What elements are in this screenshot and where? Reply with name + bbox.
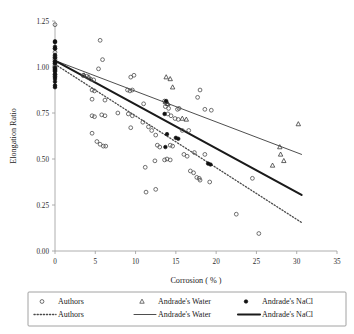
y-tick-label: 0.00	[36, 248, 49, 256]
data-point	[164, 99, 168, 103]
data-point	[198, 88, 202, 92]
data-point	[126, 112, 130, 116]
chart-figure: 0.000.250.500.751.001.2505101520253035 C…	[0, 0, 354, 334]
data-point	[130, 114, 134, 118]
scatter-chart: 0.000.250.500.751.001.2505101520253035 C…	[0, 0, 354, 334]
data-point	[53, 56, 57, 60]
data-point	[150, 129, 154, 133]
data-point	[154, 187, 158, 191]
x-tick-label: 20	[213, 258, 221, 266]
data-point	[176, 137, 180, 141]
legend-label: Andrade's Water	[158, 297, 211, 306]
y-tick-label: 0.75	[36, 110, 49, 118]
data-point	[98, 38, 102, 42]
y-tick-label: 0.50	[36, 156, 49, 164]
x-tick-label: 30	[293, 258, 301, 266]
data-point	[257, 232, 261, 236]
data-point	[203, 153, 207, 157]
trendlines	[55, 61, 302, 223]
data-point	[209, 108, 213, 112]
data-point	[278, 152, 282, 156]
data-point	[203, 107, 207, 111]
data-point	[126, 88, 130, 92]
data-point	[251, 176, 255, 180]
data-point	[154, 133, 158, 137]
tick-labels: 0.000.250.500.751.001.2505101520253035	[36, 18, 341, 266]
data-point	[164, 145, 168, 149]
data-point	[142, 102, 146, 106]
x-tick-label: 15	[172, 258, 180, 266]
data-point	[93, 115, 97, 119]
data-point	[90, 131, 94, 135]
data-point	[53, 62, 57, 66]
data-point	[192, 171, 196, 175]
data-point	[90, 97, 94, 101]
x-tick-label: 10	[132, 258, 140, 266]
data-point	[97, 67, 101, 71]
data-point	[185, 154, 189, 158]
legend-label: Andrade's NaCl	[262, 310, 314, 319]
data-point	[165, 132, 169, 136]
legend-label: Andrade's Water	[158, 310, 211, 319]
data-point	[53, 40, 57, 44]
data-point	[209, 163, 213, 167]
data-point	[171, 144, 175, 148]
data-point	[104, 144, 108, 148]
x-tick-label: 35	[333, 258, 341, 266]
data-point	[143, 165, 147, 169]
data-point	[168, 77, 172, 81]
data-point	[53, 80, 57, 84]
data-point	[168, 143, 172, 147]
y-tick-label: 0.25	[36, 202, 49, 210]
data-point	[282, 158, 286, 162]
data-point	[163, 112, 167, 116]
y-axis-title: Elongation Ratio	[9, 108, 18, 164]
data-point	[195, 176, 199, 180]
data-point	[180, 116, 184, 120]
data-point	[187, 129, 191, 133]
data-point	[147, 125, 151, 129]
x-tick-label: 25	[253, 258, 261, 266]
data-point	[101, 58, 105, 62]
data-point	[296, 122, 300, 126]
data-point	[167, 107, 171, 111]
data-point	[53, 47, 57, 51]
data-point	[234, 212, 238, 216]
data-point	[270, 163, 274, 167]
x-axis-title: Corrosion ( % )	[170, 276, 221, 285]
data-point	[103, 98, 107, 102]
data-point	[169, 114, 173, 118]
legend-label: Authors	[58, 310, 84, 319]
series-andrade-s-water	[82, 73, 301, 167]
legend-label: Andrade's NaCl	[262, 297, 314, 306]
y-tick-label: 1.25	[36, 18, 49, 26]
data-point	[53, 85, 57, 89]
data-point	[184, 117, 188, 121]
y-tick-label: 1.00	[36, 64, 49, 72]
plot-area: 0.000.250.500.751.001.2505101520253035 C…	[9, 18, 341, 285]
x-tick-label: 5	[93, 258, 97, 266]
data-point	[164, 75, 168, 79]
data-point	[90, 114, 94, 118]
data-point	[95, 140, 99, 144]
data-point	[116, 111, 120, 115]
legend-label: Authors	[58, 297, 84, 306]
data-point	[170, 85, 174, 89]
chart-legend: AuthorsAndrade's WaterAndrade's NaClAuth…	[28, 292, 346, 326]
data-point	[132, 73, 136, 77]
data-point	[129, 126, 133, 130]
data-point	[144, 190, 148, 194]
data-point	[208, 180, 212, 184]
data-point	[163, 158, 167, 162]
data-point	[196, 95, 200, 99]
filled-circle-icon	[244, 300, 248, 304]
data-point	[153, 159, 157, 163]
x-tick-label: 0	[53, 258, 57, 266]
data-point	[128, 89, 132, 93]
data-points	[53, 23, 300, 236]
